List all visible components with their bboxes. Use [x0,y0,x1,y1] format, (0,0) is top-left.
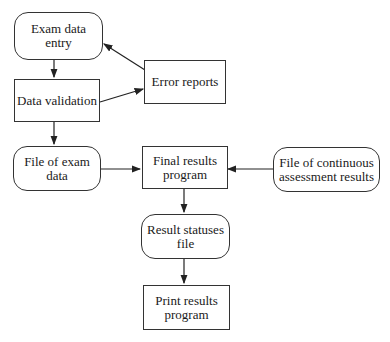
node-label: File of continuous assessment results [279,156,374,184]
edge-validation-errors [100,89,143,102]
node-exam-data-entry: Exam data entry [14,12,103,60]
node-file-of-exam-data: File of exam data [13,146,101,191]
node-final-results-program: Final results program [142,146,228,189]
node-label: Result statuses file [147,223,224,251]
node-error-reports: Error reports [144,60,226,104]
edge-errors-entry [104,44,145,70]
node-label: Error reports [152,75,219,89]
node-data-validation: Data validation [14,79,100,122]
node-label: Data validation [17,94,97,108]
node-label: Print results program [155,294,217,322]
node-label: Exam data entry [31,22,86,50]
node-print-results-program: Print results program [143,285,230,330]
node-label: File of exam data [24,155,90,183]
node-continuous-assessment-file: File of continuous assessment results [273,147,380,192]
node-label: Final results program [153,154,217,182]
node-result-statuses-file: Result statuses file [141,214,230,259]
